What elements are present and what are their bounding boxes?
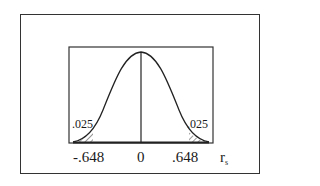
right-tail-label: .025 bbox=[187, 118, 208, 130]
tick-label-right: .648 bbox=[172, 150, 198, 165]
axis-subscript: s bbox=[225, 158, 228, 167]
axis-variable-label: rs bbox=[220, 150, 228, 170]
left-tail-label: .025 bbox=[72, 118, 93, 130]
tick-label-left: -.648 bbox=[73, 150, 104, 165]
tick-label-center: 0 bbox=[137, 150, 145, 165]
